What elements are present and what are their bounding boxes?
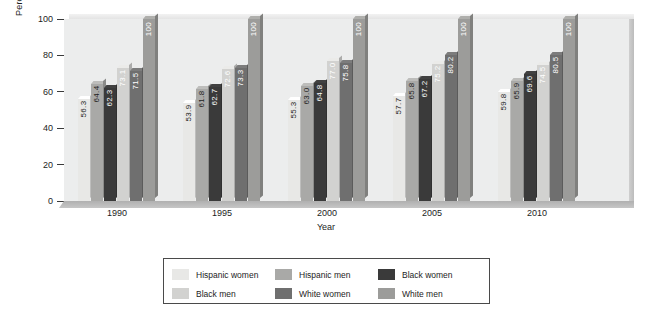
bar-2000-hispanic-women: 55.3 bbox=[288, 100, 300, 201]
bar-2010-white-women: 80.5 bbox=[550, 55, 562, 202]
bar-value-label: 62.7 bbox=[209, 89, 221, 106]
legend-row-1: Hispanic womenHispanic menBlack women bbox=[172, 265, 481, 284]
y-tick-label: 0 bbox=[48, 196, 53, 206]
bar-value-label: 55.3 bbox=[288, 102, 300, 119]
bar-1990-hispanic-women: 56.3 bbox=[78, 99, 90, 201]
bar-value-label: 69.6 bbox=[524, 76, 536, 93]
bar-value-label: 56.3 bbox=[78, 100, 90, 117]
legend-item-black-women[interactable]: Black women bbox=[378, 269, 481, 280]
bar-1995-hispanic-women: 53.9 bbox=[183, 103, 195, 201]
legend-label: Black men bbox=[196, 289, 236, 299]
bar-2005-hispanic-women: 57.7 bbox=[393, 96, 405, 201]
bar-value-label: 71.5 bbox=[130, 72, 142, 89]
bar-2005-black-men: 75.2 bbox=[432, 64, 444, 201]
bar-value-label: 64.4 bbox=[91, 85, 103, 102]
x-tick-1995: 1995 bbox=[212, 208, 232, 218]
bar-1990-white-men: 100 bbox=[143, 19, 155, 201]
bar-value-label: 75.8 bbox=[340, 65, 352, 82]
bar-chart-figure: Percentage 020406080100 56.364.462.373.1… bbox=[0, 0, 652, 312]
bar-value-label: 74.5 bbox=[537, 67, 549, 84]
x-tick-2000: 2000 bbox=[317, 208, 337, 218]
bar-1990-black-women: 62.3 bbox=[104, 88, 116, 201]
bar-1990-white-women: 71.5 bbox=[130, 71, 142, 201]
bar-group-2010: 59.865.969.674.580.5100 bbox=[498, 19, 576, 201]
bar-side-face bbox=[365, 13, 368, 198]
bar-value-label: 65.9 bbox=[511, 83, 523, 100]
legend-swatch-icon bbox=[275, 288, 292, 299]
bar-2005-white-men: 100 bbox=[458, 19, 470, 201]
legend-label: White women bbox=[299, 289, 351, 299]
bar-series-container: 56.364.462.373.171.510053.961.862.772.67… bbox=[64, 19, 629, 201]
bar-value-label: 57.7 bbox=[393, 98, 405, 115]
bar-value-label: 73.3 bbox=[235, 69, 247, 86]
legend-swatch-icon bbox=[172, 269, 189, 280]
legend-swatch-icon bbox=[172, 288, 189, 299]
bar-group-2005: 57.765.867.275.280.2100 bbox=[393, 19, 471, 201]
bar-group-1990: 56.364.462.373.171.5100 bbox=[78, 19, 156, 201]
bar-value-label: 100 bbox=[458, 22, 470, 36]
axis-floor bbox=[59, 201, 634, 208]
y-tick-label: 80 bbox=[43, 50, 53, 60]
bar-1995-hispanic-men: 61.8 bbox=[196, 89, 208, 201]
legend-item-white-men[interactable]: White men bbox=[378, 288, 481, 299]
bar-value-label: 73.1 bbox=[117, 70, 129, 87]
legend-swatch-icon bbox=[275, 269, 292, 280]
y-tick-20: 20 bbox=[20, 160, 64, 170]
y-tick-label: 60 bbox=[43, 87, 53, 97]
bar-2000-black-women: 64.8 bbox=[314, 83, 326, 201]
y-tick-80: 80 bbox=[20, 50, 64, 60]
bar-2005-white-women: 80.2 bbox=[445, 55, 457, 201]
legend-item-white-women[interactable]: White women bbox=[275, 288, 378, 299]
bar-group-2000: 55.363.064.877.075.8100 bbox=[288, 19, 366, 201]
bar-2000-white-women: 75.8 bbox=[340, 63, 352, 201]
bar-value-label: 72.6 bbox=[222, 70, 234, 87]
legend-item-hispanic-men[interactable]: Hispanic men bbox=[275, 269, 378, 280]
bar-value-label: 53.9 bbox=[183, 105, 195, 122]
bar-1990-hispanic-men: 64.4 bbox=[91, 84, 103, 201]
x-tick-2010: 2010 bbox=[527, 208, 547, 218]
bar-value-label: 77.0 bbox=[327, 62, 339, 79]
y-tick-40: 40 bbox=[20, 123, 64, 133]
bar-2010-black-men: 74.5 bbox=[537, 65, 549, 201]
bar-2010-white-men: 100 bbox=[563, 19, 575, 201]
legend-swatch-icon bbox=[378, 288, 395, 299]
bar-value-label: 67.2 bbox=[419, 80, 431, 97]
x-tick-1990: 1990 bbox=[107, 208, 127, 218]
legend-label: Hispanic women bbox=[196, 270, 258, 280]
bar-group-1995: 53.961.862.772.673.3100 bbox=[183, 19, 261, 201]
bar-value-label: 62.3 bbox=[104, 89, 116, 106]
legend-label: White men bbox=[402, 289, 443, 299]
bar-side-face bbox=[155, 13, 158, 198]
bar-value-label: 100 bbox=[563, 22, 575, 36]
chart-legend: Hispanic womenHispanic menBlack womenBla… bbox=[163, 258, 490, 304]
bar-2000-white-men: 100 bbox=[353, 19, 365, 201]
y-tick-mark bbox=[57, 19, 64, 20]
bar-1990-black-men: 73.1 bbox=[117, 68, 129, 201]
bar-value-label: 75.2 bbox=[432, 66, 444, 83]
y-tick-mark bbox=[57, 91, 64, 92]
bar-1995-black-women: 62.7 bbox=[209, 87, 221, 201]
y-tick-0: 0 bbox=[20, 196, 64, 206]
bar-value-label: 59.8 bbox=[498, 94, 510, 111]
bar-value-label: 61.8 bbox=[196, 90, 208, 107]
y-tick-label: 100 bbox=[38, 14, 53, 24]
y-tick-mark bbox=[57, 128, 64, 129]
bar-value-label: 80.2 bbox=[445, 57, 457, 74]
bar-value-label: 63.0 bbox=[301, 88, 313, 105]
y-tick-mark bbox=[57, 55, 64, 56]
bar-value-label: 100 bbox=[143, 22, 155, 36]
legend-item-hispanic-women[interactable]: Hispanic women bbox=[172, 269, 275, 280]
bar-value-label: 80.5 bbox=[550, 56, 562, 73]
y-tick-label: 20 bbox=[43, 160, 53, 170]
legend-row-2: Black menWhite womenWhite men bbox=[172, 284, 481, 303]
bar-2005-black-women: 67.2 bbox=[419, 79, 431, 201]
bar-2010-hispanic-men: 65.9 bbox=[511, 81, 523, 201]
legend-label: Hispanic men bbox=[299, 270, 351, 280]
bar-2000-hispanic-men: 63.0 bbox=[301, 86, 313, 201]
bar-value-label: 100 bbox=[353, 22, 365, 36]
legend-item-black-men[interactable]: Black men bbox=[172, 288, 275, 299]
bar-1995-white-women: 73.3 bbox=[235, 68, 247, 201]
y-tick-mark bbox=[57, 164, 64, 165]
bar-side-face bbox=[260, 13, 263, 198]
x-tick-2005: 2005 bbox=[422, 208, 442, 218]
